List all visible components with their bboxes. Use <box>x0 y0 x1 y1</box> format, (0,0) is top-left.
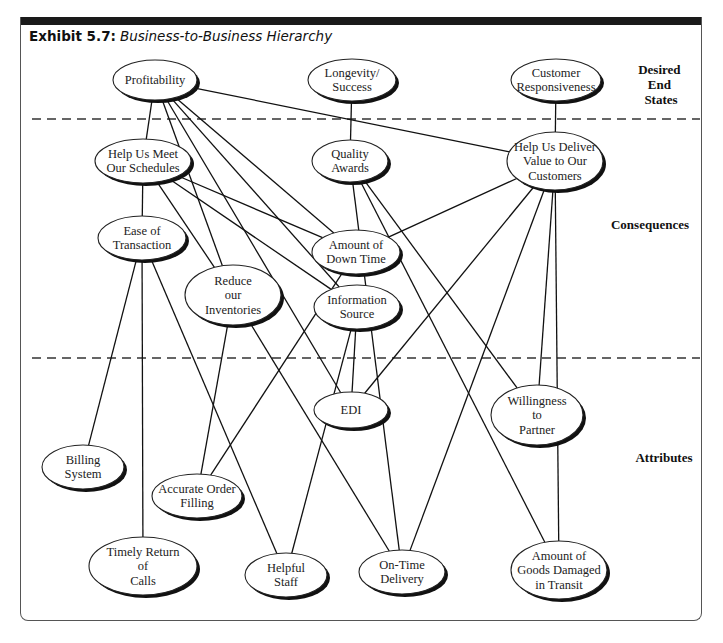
nodes: ProfitabilityLongevity/SuccessCustomerRe… <box>42 59 610 602</box>
edge-info_source-to-helpful_staff <box>292 329 351 553</box>
node-reduce-inventories: ReduceourInventories <box>185 265 284 328</box>
edge-profitability-to-down_time <box>175 97 333 233</box>
edge-reduce_inventories-to-accurate_order <box>201 325 228 474</box>
node-customer-resp: CustomerResponsiveness <box>511 59 604 104</box>
level-label-consequences: Consequences <box>611 217 689 232</box>
edge-longevity-to-quality_awards <box>351 101 352 140</box>
node-billing: BillingSystem <box>42 445 127 492</box>
edge-deliver_value-to-down_time <box>388 179 516 238</box>
node-label: BillingSystem <box>65 453 102 482</box>
node-willingness: WillingnesstoPartner <box>491 385 586 448</box>
edge-profitability-to-meet_schedules <box>146 100 152 139</box>
level-labels: Desired End States Consequences Attribut… <box>611 62 693 465</box>
edge-quality_awards-to-goods_damaged <box>360 181 545 542</box>
node-ease-transaction: Ease ofTransaction <box>98 216 189 263</box>
node-quality-awards: QualityAwards <box>312 140 391 185</box>
edge-deliver_value-to-goods_damaged <box>555 190 558 541</box>
node-label: Longevity/Success <box>325 66 380 95</box>
node-longevity: Longevity/Success <box>308 59 399 104</box>
edge-meet_schedules-to-down_time <box>178 176 322 238</box>
level-label-desired-end-states: Desired End States <box>638 62 684 107</box>
edge-deliver_value-to-willingness <box>539 190 553 385</box>
node-helpful-staff: HelpfulStaff <box>245 553 330 600</box>
node-info-source: InformationSource <box>314 285 403 332</box>
edge-quality_awards-to-willingness <box>364 180 517 388</box>
node-label: Help Us MeetOur Schedules <box>106 147 179 176</box>
node-label: QualityAwards <box>331 147 369 176</box>
node-meet-schedules: Help Us MeetOur Schedules <box>95 139 194 186</box>
hierarchy-diagram: ProfitabilityLongevity/SuccessCustomerRe… <box>0 0 723 643</box>
node-timely-return: Timely ReturnofCalls <box>89 537 200 598</box>
node-accurate-order: Accurate OrderFilling <box>152 474 245 521</box>
edge-info_source-to-edi <box>352 329 356 392</box>
level-label-attributes: Attributes <box>635 450 692 465</box>
edge-ease_transaction-to-timely_return <box>142 260 143 537</box>
node-on-time: On-TimeDelivery <box>359 550 448 597</box>
node-profitability: Profitability <box>113 60 200 103</box>
node-goods-damaged: Amount ofGoods Damagedin Transit <box>511 541 610 602</box>
node-label: On-TimeDelivery <box>379 558 425 587</box>
node-deliver-value: Help Us DeliverValue to OurCustomers <box>507 132 606 193</box>
node-label: Amount ofDown Time <box>326 238 386 267</box>
node-label: Profitability <box>125 73 186 87</box>
node-down-time: Amount ofDown Time <box>312 230 403 277</box>
edge-deliver_value-to-on_time <box>410 189 544 550</box>
node-label: EDI <box>341 403 362 417</box>
edge-ease_transaction-to-billing <box>89 260 137 445</box>
edge-deliver_value-to-edi <box>365 187 534 393</box>
